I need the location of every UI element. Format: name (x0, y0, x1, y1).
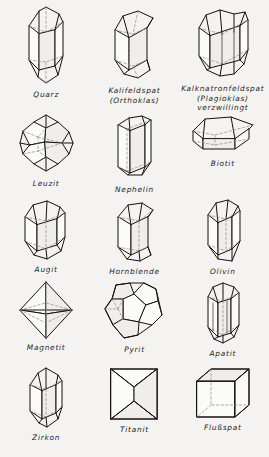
specimen-caption: Flußspat (204, 423, 242, 433)
specimen-cell-hornblende: Hornblende (90, 197, 178, 279)
specimen-caption: Kalifeldspat (Orthoklas) (108, 86, 160, 105)
crystal-drawing-hornblende (108, 197, 160, 265)
crystal-drawing-olivin (198, 197, 248, 265)
crystal-drawing-flussspat (192, 365, 254, 421)
crystal-drawing-leuzit (12, 109, 80, 177)
specimen-cell-titanit: Titanit (90, 365, 178, 447)
crystal-drawing-plagioklas (190, 4, 256, 82)
specimen-cell-quarz: Quarz (2, 4, 90, 109)
specimen-caption: Apatit (210, 349, 237, 359)
specimen-grid: Quarz Kalifeldspat (Orthoklas) (0, 0, 269, 457)
specimen-caption: Magnetit (27, 343, 66, 353)
specimen-cell-apatit: Apatit (179, 279, 267, 365)
specimen-caption: Nephelin (115, 185, 154, 195)
specimen-cell-kalifeldspat: Kalifeldspat (Orthoklas) (90, 4, 178, 109)
crystal-habit-figure: Quarz Kalifeldspat (Orthoklas) (0, 0, 269, 457)
specimen-caption: Titanit (120, 425, 149, 435)
specimen-caption: Augit (35, 265, 58, 275)
specimen-caption: Zirkon (32, 433, 60, 443)
crystal-drawing-augit (17, 197, 75, 263)
specimen-cell-magnetit: Magnetit (2, 279, 90, 365)
specimen-cell-biotit: Biotit (179, 109, 267, 197)
specimen-caption: Biotit (211, 159, 235, 169)
specimen-caption: Leuzit (33, 179, 60, 189)
specimen-caption: Hornblende (109, 267, 160, 277)
crystal-drawing-biotit (187, 109, 259, 157)
specimen-cell-olivin: Olivin (179, 197, 267, 279)
crystal-drawing-quarz (15, 4, 77, 88)
crystal-drawing-apatit (199, 279, 247, 347)
crystal-drawing-zirkon (20, 365, 72, 431)
specimen-cell-zirkon: Zirkon (2, 365, 90, 447)
specimen-cell-plagioklas: Kalknatronfeldspat (Plagioklas) verzwill… (179, 4, 267, 109)
specimen-cell-flussspat: Flußspat (179, 365, 267, 447)
crystal-drawing-magnetit (14, 279, 78, 341)
crystal-drawing-titanit (106, 365, 162, 423)
specimen-caption: Pyrit (124, 345, 145, 355)
specimen-cell-leuzit: Leuzit (2, 109, 90, 197)
crystal-drawing-kalifeldspat (105, 4, 163, 84)
crystal-drawing-nephelin (109, 109, 159, 183)
specimen-cell-nephelin: Nephelin (90, 109, 178, 197)
crystal-drawing-pyrit (100, 279, 168, 343)
specimen-cell-pyrit: Pyrit (90, 279, 178, 365)
specimen-caption: Olivin (210, 267, 236, 277)
specimen-caption: Quarz (33, 90, 59, 100)
specimen-cell-augit: Augit (2, 197, 90, 279)
